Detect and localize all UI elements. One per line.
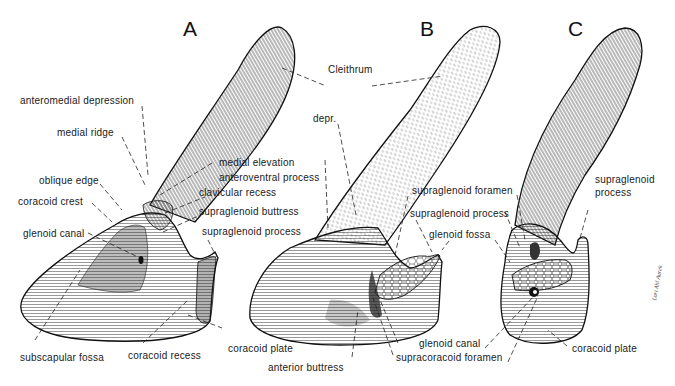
label-coracoid-recess: coracoid recess xyxy=(128,350,201,361)
label-supraglenoid-process-b: supraglenoid process xyxy=(410,208,509,219)
label-glenoid-canal-a: glenoid canal xyxy=(23,228,85,239)
label-anteromedial-depression: anteromedial depression xyxy=(20,95,134,106)
label-supraglenoid-process-c-line2: process xyxy=(595,187,631,198)
panel-c-illustration xyxy=(501,28,642,343)
label-glenoid-canal-b: glenoid canal xyxy=(419,338,481,349)
label-coracoid-crest: coracoid crest xyxy=(18,196,83,207)
label-supraglenoid-buttress: supraglenoid buttress xyxy=(199,206,299,217)
label-supraglenoid-foramen: supraglenoid foramen xyxy=(412,185,513,196)
label-medial-elevation: medial elevation xyxy=(219,157,294,168)
label-subscapular-fossa: subscapular fossa xyxy=(20,352,104,363)
illustration-canvas xyxy=(0,0,675,386)
panel-letter-b: B xyxy=(420,18,434,40)
label-supracoracoid-foramen: supracoracoid foramen xyxy=(396,352,502,363)
label-supraglenoid-process-a: supraglenoid process xyxy=(202,226,301,237)
label-depr: depr. xyxy=(313,113,336,124)
scapulocoracoid-figure: A B C Cleithrum anteromedial depression … xyxy=(0,0,675,386)
label-anteroventral-process: anteroventral process xyxy=(219,172,319,183)
panel-letter-a: A xyxy=(183,18,197,40)
panel-letter-c: C xyxy=(568,18,583,40)
label-glenoid-fossa: glenoid fossa xyxy=(429,229,491,240)
label-coracoid-plate-a: coracoid plate xyxy=(228,343,293,354)
label-anterior-buttress: anterior buttress xyxy=(268,362,344,373)
label-supraglenoid-process-c-line1: supraglenoid xyxy=(595,174,655,185)
label-cleithrum: Cleithrum xyxy=(328,64,373,75)
label-oblique-edge: oblique edge xyxy=(39,175,99,186)
label-medial-ridge: medial ridge xyxy=(57,127,114,138)
label-coracoid-plate-c: coracoid plate xyxy=(572,343,637,354)
label-clavicular-recess: clavicular recess xyxy=(199,187,276,198)
